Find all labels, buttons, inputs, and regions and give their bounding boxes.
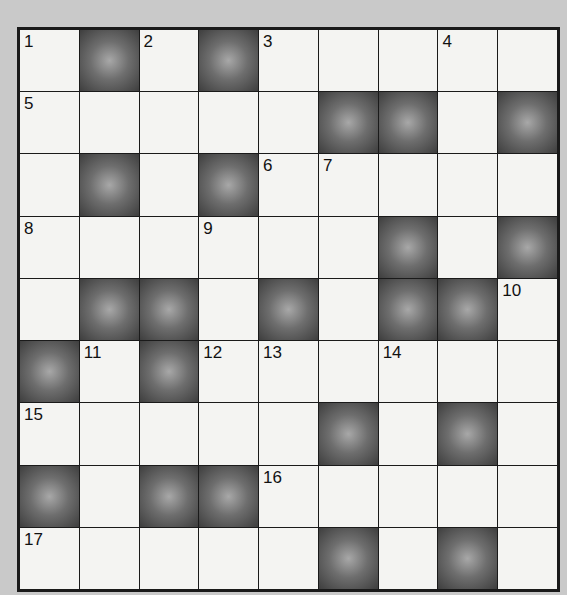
- white-cell[interactable]: [259, 403, 318, 464]
- white-cell[interactable]: 14: [379, 341, 438, 402]
- white-cell[interactable]: [140, 92, 199, 153]
- white-cell[interactable]: [319, 341, 378, 402]
- white-cell[interactable]: 1: [20, 30, 79, 91]
- white-cell[interactable]: 6: [259, 154, 318, 215]
- white-cell[interactable]: [319, 217, 378, 278]
- white-cell[interactable]: [379, 403, 438, 464]
- white-cell[interactable]: [259, 217, 318, 278]
- white-cell[interactable]: [140, 154, 199, 215]
- black-cell: [140, 341, 199, 402]
- clue-number: 5: [24, 95, 33, 112]
- white-cell[interactable]: [259, 92, 318, 153]
- black-cell: [259, 279, 318, 340]
- black-cell: [498, 92, 557, 153]
- white-cell[interactable]: 4: [438, 30, 497, 91]
- white-cell[interactable]: [259, 528, 318, 589]
- white-cell[interactable]: [319, 466, 378, 527]
- white-cell[interactable]: [199, 279, 258, 340]
- black-cell: [199, 30, 258, 91]
- white-cell[interactable]: 16: [259, 466, 318, 527]
- white-cell[interactable]: [199, 92, 258, 153]
- black-cell: [379, 279, 438, 340]
- white-cell[interactable]: [20, 154, 79, 215]
- white-cell[interactable]: [498, 154, 557, 215]
- black-cell: [498, 217, 557, 278]
- white-cell[interactable]: [438, 466, 497, 527]
- clue-number: 14: [383, 344, 402, 361]
- white-cell[interactable]: [498, 528, 557, 589]
- black-cell: [319, 92, 378, 153]
- clue-number: 12: [203, 344, 222, 361]
- white-cell[interactable]: 10: [498, 279, 557, 340]
- clue-number: 11: [84, 344, 102, 361]
- clue-number: 17: [24, 531, 43, 548]
- white-cell[interactable]: 15: [20, 403, 79, 464]
- clue-number: 15: [24, 406, 43, 423]
- white-cell[interactable]: [80, 528, 139, 589]
- white-cell[interactable]: [438, 92, 497, 153]
- black-cell: [438, 279, 497, 340]
- white-cell[interactable]: [80, 92, 139, 153]
- black-cell: [80, 279, 139, 340]
- clue-number: 6: [263, 157, 272, 174]
- clue-number: 10: [502, 282, 521, 299]
- white-cell[interactable]: [140, 403, 199, 464]
- white-cell[interactable]: 3: [259, 30, 318, 91]
- white-cell[interactable]: [498, 403, 557, 464]
- white-cell[interactable]: 2: [140, 30, 199, 91]
- clue-number: 7: [323, 157, 332, 174]
- white-cell[interactable]: [199, 403, 258, 464]
- black-cell: [140, 279, 199, 340]
- white-cell[interactable]: 12: [199, 341, 258, 402]
- black-cell: [80, 30, 139, 91]
- clue-number: 1: [24, 33, 33, 50]
- white-cell[interactable]: [498, 466, 557, 527]
- white-cell[interactable]: [319, 279, 378, 340]
- clue-number: 13: [263, 344, 282, 361]
- black-cell: [199, 154, 258, 215]
- white-cell[interactable]: [319, 30, 378, 91]
- white-cell[interactable]: [498, 30, 557, 91]
- white-cell[interactable]: [20, 279, 79, 340]
- black-cell: [20, 466, 79, 527]
- white-cell[interactable]: 7: [319, 154, 378, 215]
- white-cell[interactable]: [379, 30, 438, 91]
- white-cell[interactable]: [498, 341, 557, 402]
- black-cell: [319, 403, 378, 464]
- black-cell: [379, 217, 438, 278]
- white-cell[interactable]: [379, 154, 438, 215]
- white-cell[interactable]: [80, 403, 139, 464]
- white-cell[interactable]: [438, 341, 497, 402]
- clue-number: 8: [24, 220, 33, 237]
- white-cell[interactable]: 13: [259, 341, 318, 402]
- clue-number: 16: [263, 469, 282, 486]
- white-cell[interactable]: [80, 217, 139, 278]
- white-cell[interactable]: [140, 217, 199, 278]
- white-cell[interactable]: [140, 528, 199, 589]
- clue-number: 2: [144, 33, 153, 50]
- white-cell[interactable]: 8: [20, 217, 79, 278]
- white-cell[interactable]: 11: [80, 341, 139, 402]
- black-cell: [20, 341, 79, 402]
- black-cell: [140, 466, 199, 527]
- clue-number: 3: [263, 33, 272, 50]
- white-cell[interactable]: 9: [199, 217, 258, 278]
- white-cell[interactable]: 17: [20, 528, 79, 589]
- black-cell: [80, 154, 139, 215]
- crossword-grid: 1234567891011121314151617: [17, 27, 560, 592]
- white-cell[interactable]: [80, 466, 139, 527]
- black-cell: [379, 92, 438, 153]
- clue-number: 4: [442, 33, 451, 50]
- white-cell[interactable]: [379, 466, 438, 527]
- white-cell[interactable]: [379, 528, 438, 589]
- black-cell: [199, 466, 258, 527]
- white-cell[interactable]: [199, 528, 258, 589]
- white-cell[interactable]: [438, 217, 497, 278]
- clue-number: 9: [203, 220, 212, 237]
- black-cell: [438, 403, 497, 464]
- white-cell[interactable]: [438, 154, 497, 215]
- black-cell: [438, 528, 497, 589]
- black-cell: [319, 528, 378, 589]
- white-cell[interactable]: 5: [20, 92, 79, 153]
